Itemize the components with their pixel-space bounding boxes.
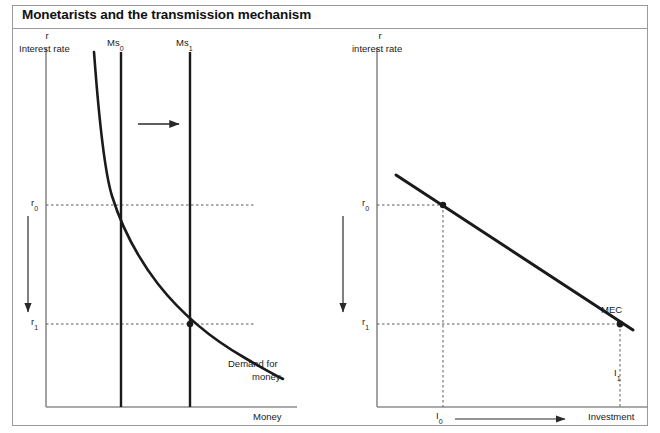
left-x-axis-label: Money	[253, 412, 282, 423]
ms1-text: Ms	[176, 37, 189, 48]
right-r0-label: r0	[362, 198, 369, 211]
investment-point-a	[440, 202, 446, 208]
right-chart-axes	[377, 48, 648, 407]
demand-for-money-curve	[94, 52, 283, 379]
ms0-subscript: 0	[120, 45, 124, 52]
ms1-subscript: 1	[189, 45, 193, 52]
right-r1-label: r1	[362, 317, 369, 330]
right-r1-subscript: 1	[365, 324, 369, 331]
right-r0-subscript: 0	[365, 205, 369, 212]
right-chart-guides	[377, 205, 620, 407]
diagram-page: Monetarists and the transmission mechani…	[0, 0, 660, 433]
demand-for-money-label-line2: money	[252, 372, 281, 383]
equilibrium-point-e1	[187, 321, 193, 327]
diagram-graphics	[0, 0, 660, 433]
left-r1-subscript: 1	[34, 324, 38, 331]
left-chart-axes	[46, 48, 297, 407]
mec-curve	[396, 175, 633, 330]
i1-subscript: 1	[617, 375, 621, 382]
money-supply-0-label: Ms0	[107, 38, 124, 51]
mec-label: MEC	[601, 305, 622, 316]
ms0-text: Ms	[107, 37, 120, 48]
right-y-axis-label: interest rate	[352, 44, 402, 55]
right-x-axis-label: Investment	[588, 412, 634, 423]
left-r0-subscript: 0	[34, 205, 38, 212]
left-chart-guides	[46, 205, 255, 324]
left-r0-label: r0	[31, 198, 38, 211]
investment-point-b	[617, 321, 624, 328]
left-y-axis-label: Interest rate	[19, 44, 70, 55]
money-supply-1-label: Ms1	[176, 38, 193, 51]
i1-label: I1	[614, 368, 621, 381]
left-r1-label: r1	[31, 317, 38, 330]
i0-label: I0	[436, 411, 443, 424]
left-y-axis-symbol: r	[30, 31, 64, 42]
i0-subscript: 0	[439, 418, 443, 425]
demand-for-money-label-line1: Demand for	[228, 359, 278, 370]
right-y-axis-symbol: r	[363, 31, 397, 42]
